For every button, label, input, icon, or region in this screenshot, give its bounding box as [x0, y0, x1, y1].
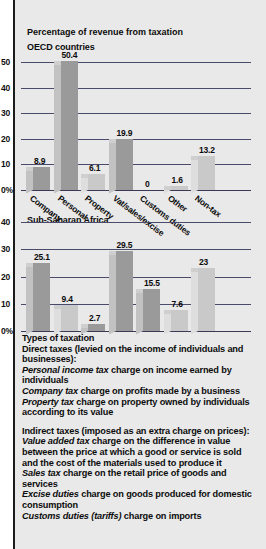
indirect-item-1: Sales tax charge on the retail price of …	[22, 468, 258, 489]
gridline	[21, 249, 251, 250]
bar-side-face	[191, 268, 198, 334]
direct-item-1: Company tax charge on profits made by a …	[22, 386, 258, 397]
paren-tariffs: (tariffs)	[91, 511, 121, 521]
customs-duties-paren: (tariffs)	[89, 511, 122, 521]
bar-top-face	[164, 310, 171, 314]
bar-customs-duties	[143, 289, 160, 331]
bar-value-label: 25.1	[34, 252, 50, 262]
bar-top-face	[136, 289, 143, 293]
indirect-item-0: Value added tax charge on the difference…	[22, 436, 258, 468]
bar-front-face	[61, 305, 78, 331]
term-value-added-tax: Value added tax	[22, 436, 89, 446]
y-axis-tick-label: 0%	[1, 326, 21, 336]
direct-item-2: Property tax charge on property owned by…	[22, 397, 258, 418]
bar-front-face	[88, 324, 105, 331]
bar-value-label: 23	[199, 257, 208, 267]
desc-company-tax: charge on profits made by a business	[78, 386, 240, 396]
term-excise-duties: Excise duties	[22, 489, 79, 499]
notes-spacer	[22, 418, 258, 426]
direct-item-0: Personal income tax charge on income ear…	[22, 365, 258, 386]
indirect-taxes-heading: Indirect taxes (imposed as an extra char…	[22, 426, 258, 437]
figure-page: Percentage of revenue from taxation OECD…	[0, 0, 266, 549]
bar-other	[171, 310, 188, 331]
direct-taxes-heading: Direct taxes (levied on the income of in…	[22, 344, 258, 365]
term-company-tax: Company tax	[22, 386, 78, 396]
gridline	[21, 222, 251, 223]
bar-top-face	[81, 324, 88, 328]
indirect-item-3: Customs duties (tariffs) charge on impor…	[22, 511, 258, 522]
bar-front-face	[171, 310, 188, 331]
bar-property	[88, 324, 105, 331]
bar-vat-sales-excise	[116, 251, 133, 331]
bar-front-face	[143, 289, 160, 331]
y-axis-tick-label: 30	[1, 244, 21, 254]
chart-sub-saharan-africa: Sub-Saharan Africa 403020100%25.19.42.72…	[0, 0, 251, 340]
bar-value-label: 15.5	[144, 278, 160, 288]
bar-value-label: 29.5	[117, 240, 133, 250]
bar-value-label: 9.4	[62, 294, 73, 304]
indirect-item-2: Excise duties charge on goods produced f…	[22, 489, 258, 510]
bar-top-face	[109, 251, 116, 255]
gridline	[21, 277, 251, 278]
bar-top-face	[26, 263, 33, 267]
notes-block: Types of taxation Direct taxes (levied o…	[22, 333, 258, 521]
term-personal-income-tax: Personal income tax	[22, 365, 109, 375]
bar-top-face	[191, 268, 198, 272]
bar-front-face	[198, 268, 215, 331]
y-axis-tick-label: 40	[1, 217, 21, 227]
y-axis-tick-label: 10	[1, 299, 21, 309]
bar-side-face	[26, 263, 33, 335]
y-axis-tick-label: 20	[1, 272, 21, 282]
bar-front-face	[116, 251, 133, 331]
bar-value-label: 2.7	[89, 313, 100, 323]
bar-side-face	[136, 289, 143, 335]
bar-front-face	[33, 263, 50, 331]
notes-heading: Types of taxation	[22, 333, 258, 344]
bar-non-tax	[198, 268, 215, 331]
bar-side-face	[109, 251, 116, 335]
term-customs-duties: Customs duties	[22, 511, 89, 521]
desc-customs-duties: charge on imports	[121, 511, 201, 521]
chart-africa-plot: 403020100%25.19.42.729.515.57.623	[0, 0, 251, 340]
bar-company	[33, 263, 50, 331]
bar-top-face	[54, 305, 61, 309]
bar-personal	[61, 305, 78, 331]
term-property-tax: Property tax	[22, 397, 74, 407]
term-sales-tax: Sales tax	[22, 468, 61, 478]
bar-value-label: 7.6	[172, 299, 183, 309]
bar-side-face	[54, 305, 61, 334]
